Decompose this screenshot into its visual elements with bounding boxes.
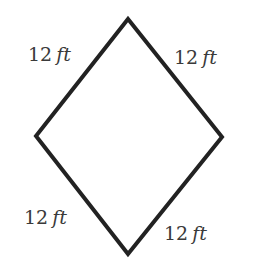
side-label-top-left: 12ft <box>28 43 71 65</box>
side-label-bottom-right: 12ft <box>164 222 207 244</box>
rhombus-diagram: 12ft 12ft 12ft 12ft <box>0 0 254 268</box>
side-label-top-right: 12ft <box>174 46 217 68</box>
side-label-bottom-left: 12ft <box>24 206 67 228</box>
